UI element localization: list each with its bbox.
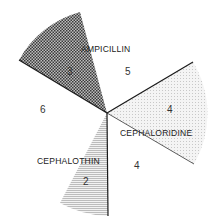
count-cephalothin: 2 <box>83 176 89 187</box>
count-gap-cephaloridine-cephalothin: 4 <box>134 160 140 171</box>
label-cephaloridine: CEPHALORIDINE <box>120 128 192 138</box>
count-cephaloridine: 4 <box>167 104 173 115</box>
count-ampicillin: 3 <box>67 66 73 77</box>
ampicillin-wedge <box>19 12 107 113</box>
count-gap-ampicillin-cephaloridine: 5 <box>125 66 131 77</box>
count-gap-cephalothin-ampicillin: 6 <box>40 104 46 115</box>
wedge-diagram <box>0 0 210 224</box>
label-cephalothin: CEPHALOTHIN <box>37 156 100 166</box>
cephaloridine-wedge <box>107 62 207 164</box>
label-ampicillin: AMPICILLIN <box>81 44 130 54</box>
